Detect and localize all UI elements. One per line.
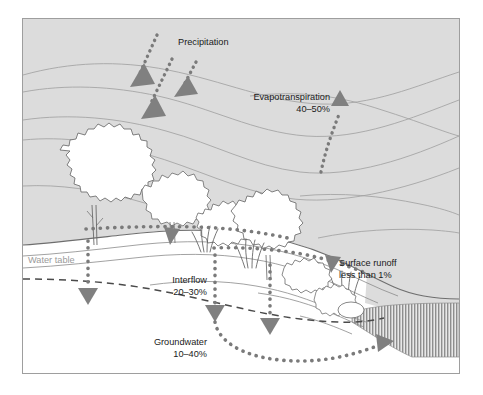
label-groundwater-line1: Groundwater: [154, 337, 207, 347]
hydrologic-cycle-figure: Precipitation Evapotranspiration 40–50% …: [0, 0, 483, 395]
label-evapotranspiration-line1: Evapotranspiration: [253, 92, 330, 102]
label-surface-runoff-line2: less than 1%: [339, 270, 392, 280]
label-water-table: Water table: [28, 255, 75, 265]
label-precipitation: Precipitation: [178, 37, 229, 47]
label-groundwater-line2: 10–40%: [173, 349, 207, 359]
diagram-canvas: Precipitation Evapotranspiration 40–50% …: [0, 0, 483, 395]
label-surface-runoff-line1: Surface runoff: [339, 258, 397, 268]
label-interflow-line1: Interflow: [172, 275, 207, 285]
label-evapotranspiration-line2: 40–50%: [296, 104, 330, 114]
label-interflow-line2: 20–30%: [173, 287, 207, 297]
